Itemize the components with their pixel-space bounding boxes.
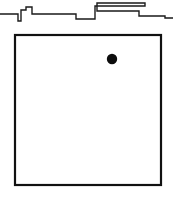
filled-dot-marker[interactable] [107, 54, 117, 64]
diagram-canvas [0, 0, 173, 197]
outer-square-frame [15, 35, 161, 185]
figure-svg [0, 0, 173, 197]
